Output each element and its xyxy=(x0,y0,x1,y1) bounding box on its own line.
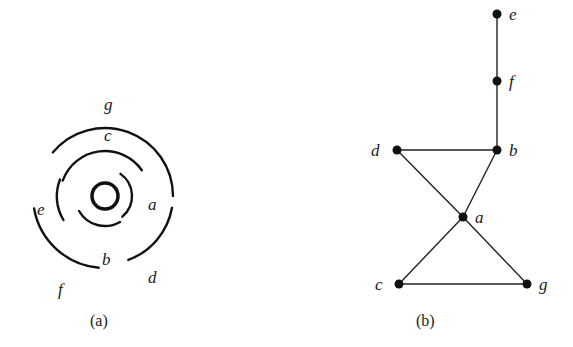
node-b xyxy=(493,146,502,155)
caption-a: (a) xyxy=(90,312,108,330)
edge-a-g xyxy=(463,217,527,284)
arc-label-f: f xyxy=(58,280,65,299)
edge-b-a xyxy=(463,150,497,217)
edge-d-a xyxy=(397,150,463,217)
arc-a xyxy=(120,174,132,217)
graph-figure: abcegdf (a) efdbacg (b) xyxy=(0,0,573,347)
arc-label-a: a xyxy=(148,195,157,214)
node-label-a: a xyxy=(475,208,484,227)
center-ring xyxy=(92,183,118,209)
node-label-e: e xyxy=(509,5,517,24)
arc-label-d: d xyxy=(148,268,157,287)
node-a xyxy=(459,213,468,222)
node-label-f: f xyxy=(509,72,516,91)
figure-a-arcs-diagram: abcegdf xyxy=(34,95,173,299)
node-label-c: c xyxy=(375,275,383,294)
node-e xyxy=(493,10,502,19)
arc-c xyxy=(63,151,142,181)
arc-label-e: e xyxy=(37,200,45,219)
node-g xyxy=(523,280,532,289)
node-label-b: b xyxy=(509,141,518,160)
arc-label-g: g xyxy=(104,95,113,114)
node-f xyxy=(493,77,502,86)
node-label-d: d xyxy=(371,141,380,160)
arc-b xyxy=(79,211,120,226)
arc-e xyxy=(57,180,63,220)
node-c xyxy=(395,280,404,289)
node-label-g: g xyxy=(539,275,548,294)
figure-b-graph: efdbacg xyxy=(371,5,548,294)
node-d xyxy=(393,146,402,155)
caption-b: (b) xyxy=(416,312,435,330)
arc-label-b: b xyxy=(102,250,111,269)
edge-a-c xyxy=(399,217,463,284)
arc-d xyxy=(128,208,172,260)
